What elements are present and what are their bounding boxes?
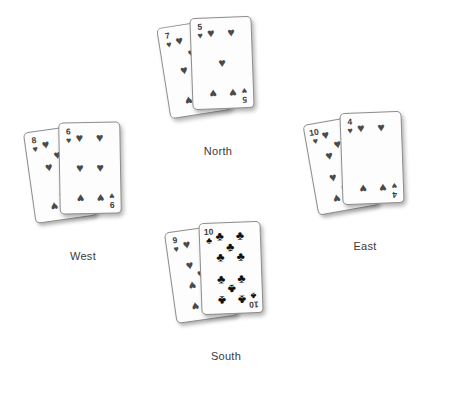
hand-label-north: North [158, 145, 278, 157]
hand-west: 8 ♥ 8 ♥ ♥ ♥ ♥ ♥ ♥ ♥ ♥ ♥ [29, 122, 141, 247]
heart-icon: ♥ [377, 182, 389, 194]
card-pip-field: ♥ ♥ ♥ ♥ [353, 118, 392, 197]
heart-icon: ♥ [172, 34, 186, 48]
heart-icon: ♥ [94, 162, 106, 174]
heart-icon: ♥ [189, 300, 203, 314]
hand-east: 10 ♥ 10 ♥ ♥ ♥ ♥ ♥ ♥ ♥ ♥ ♥ ♥ ♥ [310, 112, 422, 237]
heart-icon: ♥ [357, 183, 369, 195]
heart-icon: ♥ [186, 279, 200, 293]
heart-icon: ♥ [177, 64, 191, 78]
card-face: 10 ♣ 10 ♣ ♣ ♣ ♣ ♣ ♣ ♣ ♣ ♣ ♣ ♣ [199, 222, 262, 314]
heart-icon: ♥ [355, 122, 367, 134]
card-pip-field: ♣ ♣ ♣ ♣ ♣ ♣ ♣ ♣ ♣ ♣ [212, 228, 251, 307]
club-icon: ♣ [234, 251, 246, 263]
card-face: 6 ♥ 9 ♥ ♥ ♥ ♥ ♥ ♥ ♥ [59, 122, 121, 213]
club-icon: ♣ [216, 294, 228, 306]
card-face: 5 ♥ 5 ♥ ♥ ♥ ♥ ♥ ♥ [190, 17, 253, 109]
heart-icon: ♥ [95, 192, 107, 204]
heart-icon: ♥ [73, 132, 85, 144]
hand-label-west: West [23, 250, 143, 262]
heart-icon: ♥ [180, 238, 194, 252]
hand-south: 9 ♥ 9 ♥ ♥ ♥ ♥ ♥ ♥ ♥ ♥ ♥ ♥ [170, 222, 282, 347]
hand-north: 7 ♥ 7 ♥ ♥ ♥ ♥ ♥ ♥ ♥ ♥ [163, 17, 273, 142]
heart-icon: ♥ [322, 149, 336, 163]
heart-icon: ♥ [93, 131, 105, 143]
card-table: 7 ♥ 7 ♥ ♥ ♥ ♥ ♥ ♥ ♥ ♥ [0, 0, 471, 398]
club-icon: ♣ [236, 293, 248, 305]
card-face: 4 ♥ 4 ♥ ♥ ♥ ♥ ♥ [340, 112, 403, 204]
heart-icon: ♥ [225, 26, 237, 38]
club-icon: ♣ [214, 251, 226, 263]
heart-icon: ♥ [375, 121, 387, 133]
heart-icon: ♥ [227, 87, 239, 99]
heart-icon: ♥ [205, 27, 217, 39]
card-west-1[interactable]: 6 ♥ 9 ♥ ♥ ♥ ♥ ♥ ♥ ♥ [58, 121, 122, 214]
card-south-1[interactable]: 10 ♣ 10 ♣ ♣ ♣ ♣ ♣ ♣ ♣ ♣ ♣ ♣ ♣ [198, 221, 263, 315]
card-pip-field: ♥ ♥ ♥ ♥ ♥ ♥ [71, 129, 108, 208]
card-pip-field: ♥ ♥ ♥ ♥ ♥ [203, 23, 242, 102]
hand-label-east: East [305, 240, 425, 252]
card-east-1[interactable]: 4 ♥ 4 ♥ ♥ ♥ ♥ ♥ [339, 111, 404, 205]
heart-icon: ♥ [42, 161, 56, 175]
heart-icon: ♥ [216, 57, 228, 69]
hand-label-south: South [166, 350, 286, 362]
heart-icon: ♥ [74, 162, 86, 174]
heart-icon: ♥ [207, 88, 219, 100]
card-north-1[interactable]: 5 ♥ 5 ♥ ♥ ♥ ♥ ♥ ♥ [189, 16, 254, 110]
heart-icon: ♥ [74, 192, 86, 204]
